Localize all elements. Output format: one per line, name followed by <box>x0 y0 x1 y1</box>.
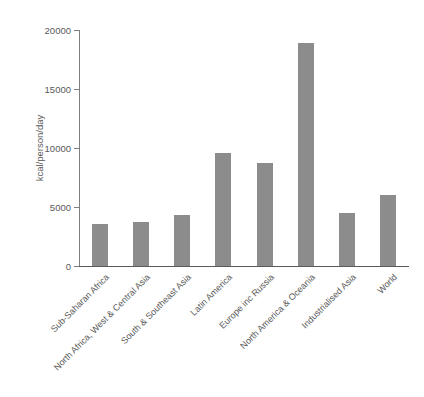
y-axis-tick-mark <box>74 89 79 90</box>
plot-area: 20000150001000050000 Sub-Saharan AfricaN… <box>79 30 409 266</box>
y-axis-tick-label: 0 <box>66 261 71 272</box>
bar-chart: kcal/person/day 20000150001000050000 Sub… <box>0 0 424 397</box>
x-axis-label-text: North America & Oceania <box>238 272 317 351</box>
bar <box>298 43 314 266</box>
bar <box>92 224 108 266</box>
y-axis-tick-mark <box>74 30 79 31</box>
bar <box>215 153 231 266</box>
x-axis-label-text: Latin America <box>189 272 235 318</box>
bar <box>380 195 396 266</box>
x-axis-label-text: South & Southeast Asia <box>119 272 193 346</box>
bar <box>133 222 149 266</box>
y-axis-tick-label: 20000 <box>45 25 71 36</box>
y-axis-line <box>79 30 80 266</box>
y-axis-tick-mark <box>74 266 79 267</box>
y-axis-tick-mark <box>74 148 79 149</box>
y-axis-tick-label: 5000 <box>50 202 71 213</box>
y-axis-tick-label: 10000 <box>45 143 71 154</box>
y-axis-tick-mark <box>74 207 79 208</box>
x-axis-line <box>79 266 409 267</box>
bar <box>174 215 190 266</box>
y-axis-tick-label: 15000 <box>45 84 71 95</box>
x-axis-label-text: World <box>376 272 400 296</box>
bar <box>257 163 273 266</box>
bar <box>339 213 355 266</box>
